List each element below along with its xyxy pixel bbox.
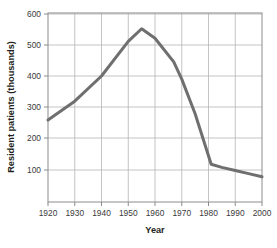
y-tick-label: 400	[27, 71, 41, 81]
y-tick-label: 300	[27, 102, 41, 112]
x-tick-label: 1980	[199, 208, 218, 218]
y-tick-label: 500	[27, 40, 41, 50]
x-tick-label: 1970	[172, 208, 191, 218]
chart-figure: 600 500 400 300 200 100 1920 1930 1940 1…	[0, 0, 277, 248]
y-axis-title: Resident patients (thousands)	[6, 41, 16, 173]
x-tick-label: 1930	[65, 208, 84, 218]
x-tick-label: 1920	[39, 208, 58, 218]
x-axis-title: Year	[145, 225, 165, 235]
x-tick-marks	[48, 202, 262, 206]
y-tick-label: 100	[27, 165, 41, 175]
x-tick-labels: 1920 1930 1940 1950 1960 1970 1980 1990 …	[39, 208, 272, 218]
y-tick-marks	[44, 14, 48, 170]
line-chart: 600 500 400 300 200 100 1920 1930 1940 1…	[0, 0, 277, 248]
y-tick-labels: 600 500 400 300 200 100	[27, 9, 41, 175]
x-tick-label: 1940	[92, 208, 111, 218]
x-tick-label: 1990	[226, 208, 245, 218]
x-tick-label: 2000	[253, 208, 272, 218]
x-tick-label: 1950	[119, 208, 138, 218]
y-tick-label: 600	[27, 9, 41, 19]
x-tick-label: 1960	[146, 208, 165, 218]
vertical-gridlines	[75, 13, 236, 202]
y-tick-label: 200	[27, 133, 41, 143]
